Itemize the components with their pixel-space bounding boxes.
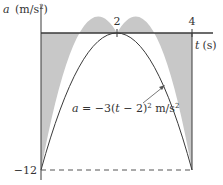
x-axis-label: t(s) xyxy=(195,39,217,52)
equation-annotation: a = −3(t − 2)2 m/s2 xyxy=(72,102,179,115)
shaded-area xyxy=(41,16,117,170)
shaded-area-right xyxy=(117,16,192,170)
tick-label-neg12: −12 xyxy=(14,164,37,177)
tick-label-4: 4 xyxy=(189,15,196,28)
tick-label-2: 2 xyxy=(114,15,121,28)
acceleration-time-graph: a (m/s2) 2 4 −12 t(s) a = −3(t − 2)2 m/s… xyxy=(0,0,223,185)
annotation-leader xyxy=(143,87,163,103)
